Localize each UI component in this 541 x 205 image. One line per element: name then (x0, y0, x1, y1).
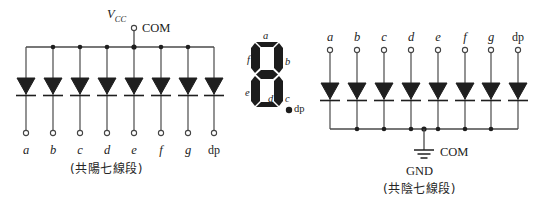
segment-f (251, 43, 260, 73)
decimal-point-dot (286, 107, 292, 113)
segment-e (251, 76, 260, 106)
anode-com-label: COM (142, 22, 170, 35)
segment-label-a: a (263, 31, 268, 42)
vcc-label: VCC (107, 8, 127, 23)
common-anode-caption: (共陽七線段) (70, 163, 143, 175)
cathode-terminal-label-d: d (399, 31, 423, 44)
ground-icon (414, 150, 434, 158)
anode-output-terminals (23, 130, 216, 135)
anode-terminal-label-d: d (95, 144, 119, 157)
decimal-point-label: dp (294, 104, 305, 115)
common-cathode-caption: (共陰七線段) (383, 183, 456, 195)
segment-label-c: c (285, 94, 290, 105)
segment-label-g: g (268, 67, 273, 78)
segment-d (256, 102, 278, 107)
anode-terminal-label-a: a (14, 144, 38, 157)
cathode-terminal-label-e: e (426, 31, 450, 44)
cathode-input-terminals (327, 47, 520, 52)
segment-b (274, 43, 283, 73)
segment-label-d: d (268, 94, 273, 105)
anode-terminal-label-c: c (68, 144, 92, 157)
anode-terminal-label-g: g (176, 144, 200, 157)
common-cathode-circuit-graphics (320, 47, 528, 158)
vcc-terminal-node (131, 25, 136, 30)
gnd-label: GND (406, 165, 433, 178)
anode-terminal-label-e: e (122, 144, 146, 157)
cathode-terminal-label-f: f (453, 31, 477, 44)
segment-label-e: e (245, 88, 250, 99)
common-anode-circuit-graphics (16, 25, 224, 135)
segment-a (256, 42, 278, 47)
cathode-terminal-label-c: c (372, 31, 396, 44)
cathode-com-label: COM (440, 146, 468, 159)
segment-label-f: f (247, 55, 250, 66)
anode-terminal-label-b: b (41, 144, 65, 157)
anode-terminal-label-dp: dp (202, 144, 226, 156)
seven-segment-led-figure: VCC COM a b c d e f g dp (共陽七線段) a f b g… (0, 0, 541, 205)
cathode-terminal-label-dp: dp (506, 31, 530, 43)
anode-diodes (16, 78, 224, 96)
cathode-terminal-label-a: a (318, 31, 342, 44)
cathode-terminal-label-g: g (479, 31, 503, 44)
anode-terminal-label-f: f (149, 144, 173, 157)
segment-c (274, 76, 283, 106)
segment-g (256, 70, 278, 79)
cathode-diodes (320, 83, 528, 101)
cathode-terminal-label-b: b (345, 31, 369, 44)
segment-label-b: b (285, 57, 290, 68)
